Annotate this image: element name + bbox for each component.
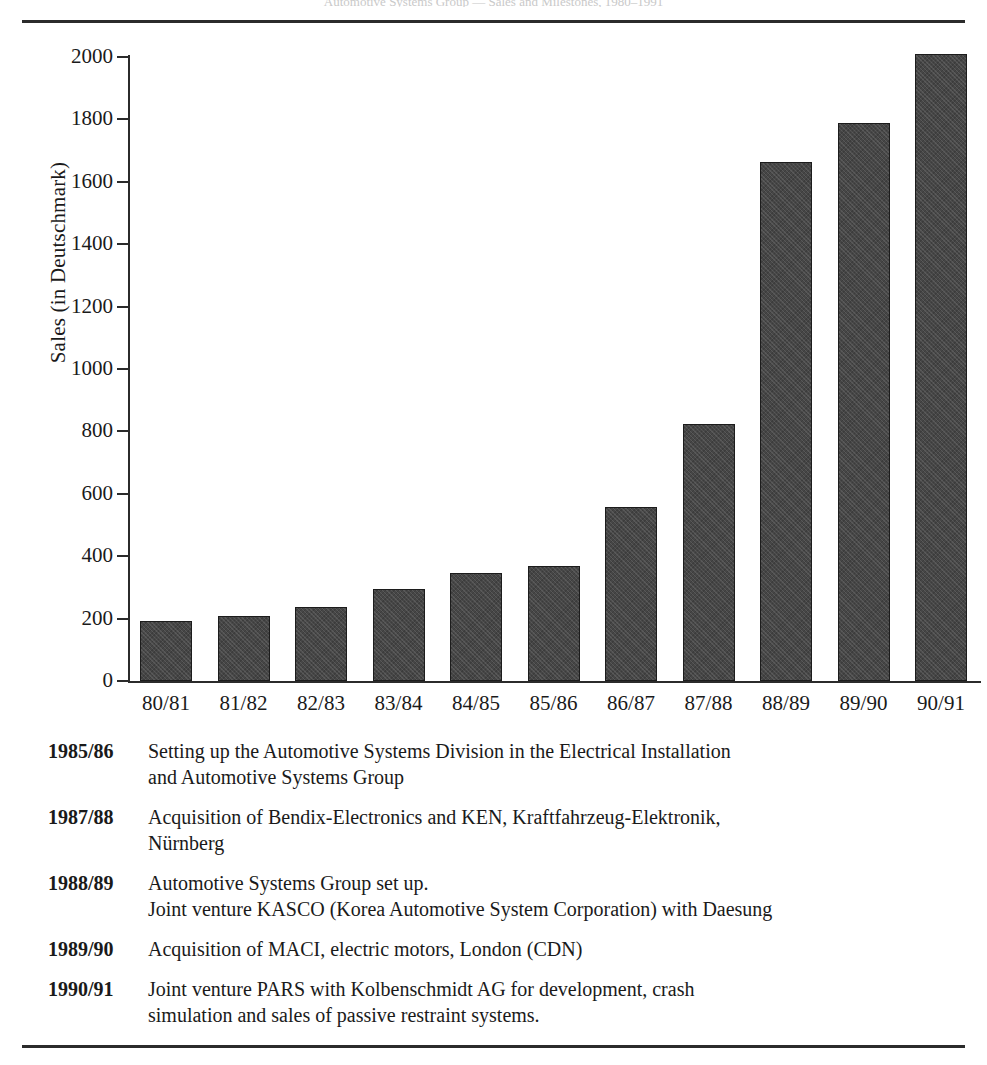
bar-82-83 (295, 607, 347, 681)
bar-89-90 (838, 123, 890, 681)
y-tick-label: 1800 (31, 108, 113, 129)
milestone-text-line: Acquisition of Bendix-Electronics and KE… (148, 804, 957, 830)
milestone-row: 1989/90Acquisition of MACI, electric mot… (0, 936, 987, 962)
bar-87-88 (683, 424, 735, 681)
y-tick-label: 400 (31, 545, 113, 566)
milestone-year: 1990/91 (48, 976, 114, 1002)
y-tick-label: 600 (31, 483, 113, 504)
y-tick-mark (117, 493, 130, 495)
milestone-text-line: Setting up the Automotive Systems Divisi… (148, 738, 957, 764)
y-tick-mark (117, 680, 130, 682)
milestone-text-line: and Automotive Systems Group (148, 764, 957, 790)
y-tick-mark (117, 555, 130, 557)
x-tick-label-82-83: 82/83 (276, 692, 366, 714)
milestone-text-line: Joint venture KASCO (Korea Automotive Sy… (148, 896, 957, 922)
x-tick-label-89-90: 89/90 (819, 692, 909, 714)
y-tick-1000: 1000 (0, 358, 113, 379)
y-tick-800: 800 (0, 420, 113, 441)
x-tick-label-84-85: 84/85 (431, 692, 521, 714)
milestone-list: 1985/86Setting up the Automotive Systems… (0, 738, 987, 1042)
y-tick-label: 200 (31, 608, 113, 629)
milestone-text: Acquisition of Bendix-Electronics and KE… (148, 804, 987, 856)
bar-81-82 (218, 616, 270, 681)
y-tick-label: 0 (31, 670, 113, 691)
sales-bar-chart: Sales (in Deutschmark) 02004006008001000… (0, 0, 987, 730)
bar-80-81 (140, 621, 192, 681)
y-tick-0: 0 (0, 670, 113, 691)
milestone-year: 1989/90 (48, 936, 114, 962)
milestone-text-line: Acquisition of MACI, electric motors, Lo… (148, 936, 957, 962)
y-tick-label: 1400 (31, 233, 113, 254)
milestone-text-line: Automotive Systems Group set up. (148, 870, 957, 896)
y-tick-label: 1200 (31, 296, 113, 317)
x-tick-label-86-87: 86/87 (586, 692, 676, 714)
y-tick-mark (117, 368, 130, 370)
y-tick-600: 600 (0, 483, 113, 504)
bar-84-85 (450, 573, 502, 681)
y-tick-mark (117, 56, 130, 58)
bar-83-84 (373, 589, 425, 681)
bar-88-89 (760, 162, 812, 681)
y-tick-2000: 2000 (0, 46, 113, 67)
y-tick-label: 800 (31, 420, 113, 441)
y-tick-mark (117, 618, 130, 620)
milestone-year: 1988/89 (48, 870, 114, 896)
y-tick-label: 1000 (31, 358, 113, 379)
y-tick-mark (117, 243, 130, 245)
x-tick-label-85-86: 85/86 (509, 692, 599, 714)
milestone-text-line: simulation and sales of passive restrain… (148, 1002, 957, 1028)
milestone-text: Setting up the Automotive Systems Divisi… (148, 738, 987, 790)
milestone-text: Automotive Systems Group set up.Joint ve… (148, 870, 987, 922)
milestone-year: 1987/88 (48, 804, 114, 830)
milestone-text: Joint venture PARS with Kolbenschmidt AG… (148, 976, 987, 1028)
bar-90-91 (915, 54, 967, 681)
y-tick-1600: 1600 (0, 171, 113, 192)
bar-85-86 (528, 566, 580, 681)
y-tick-mark (117, 118, 130, 120)
milestone-text-line: Nürnberg (148, 830, 957, 856)
milestone-row: 1990/91Joint venture PARS with Kolbensch… (0, 976, 987, 1028)
y-tick-label: 1600 (31, 171, 113, 192)
milestone-row: 1987/88Acquisition of Bendix-Electronics… (0, 804, 987, 856)
x-tick-label-81-82: 81/82 (199, 692, 289, 714)
y-tick-label: 2000 (31, 46, 113, 67)
x-tick-label-88-89: 88/89 (741, 692, 831, 714)
milestone-row: 1985/86Setting up the Automotive Systems… (0, 738, 987, 790)
y-tick-mark (117, 430, 130, 432)
milestone-text-line: Joint venture PARS with Kolbenschmidt AG… (148, 976, 957, 1002)
y-tick-1200: 1200 (0, 296, 113, 317)
y-tick-1800: 1800 (0, 108, 113, 129)
milestone-text: Acquisition of MACI, electric motors, Lo… (148, 936, 987, 962)
y-tick-mark (117, 181, 130, 183)
bar-series (130, 0, 985, 683)
x-tick-label-80-81: 80/81 (121, 692, 211, 714)
y-tick-1400: 1400 (0, 233, 113, 254)
y-tick-400: 400 (0, 545, 113, 566)
x-tick-label-90-91: 90/91 (896, 692, 986, 714)
milestone-row: 1988/89Automotive Systems Group set up.J… (0, 870, 987, 922)
x-tick-label-83-84: 83/84 (354, 692, 444, 714)
bar-86-87 (605, 507, 657, 681)
y-tick-mark (117, 306, 130, 308)
y-tick-200: 200 (0, 608, 113, 629)
bottom-rule (22, 1045, 965, 1048)
milestone-year: 1985/86 (48, 738, 114, 764)
x-tick-label-87-88: 87/88 (664, 692, 754, 714)
